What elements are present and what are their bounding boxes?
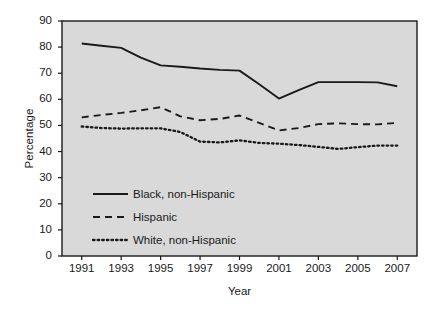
x-tick-label: 1991 [62,262,102,274]
x-tick-label: 2005 [338,262,378,274]
legend-label-hispanic: Hispanic [133,211,177,223]
y-axis-title: Percentage [22,21,36,256]
legend-label-white-non-hispanic: White, non-Hispanic [133,234,236,246]
plot-background [62,21,417,256]
x-tick-label: 1997 [180,262,220,274]
x-tick-label: 1999 [220,262,260,274]
x-tick-label: 1993 [101,262,141,274]
x-tick-label: 1995 [141,262,181,274]
x-tick-label: 2001 [259,262,299,274]
x-axis-title: Year [62,285,417,297]
legend-label-black-non-hispanic: Black, non-Hispanic [133,188,235,200]
line-chart-figure: 0102030405060708090 19911993199519971999… [0,0,437,309]
x-tick-label: 2003 [298,262,338,274]
x-tick-label: 2007 [377,262,417,274]
